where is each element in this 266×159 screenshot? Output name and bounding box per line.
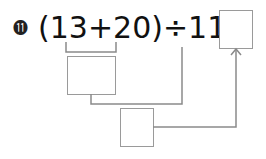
- quotient-to-answer-line: [153, 50, 236, 127]
- sum-to-divisor-line: [91, 47, 182, 104]
- sum-bracket: [66, 42, 116, 52]
- connector-lines: [0, 0, 266, 159]
